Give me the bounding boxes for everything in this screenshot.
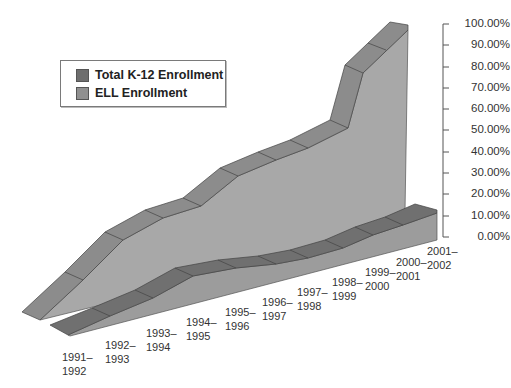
y-tick-label: 40.00% (450, 145, 510, 157)
legend-swatch-total-k12 (76, 69, 89, 82)
y-tick-label: 70.00% (450, 81, 510, 93)
legend-label: ELL Enrollment (95, 86, 187, 100)
x-category-label: 1996–1997 (262, 295, 293, 323)
x-category-label: 1998–1999 (332, 275, 363, 303)
y-tick-label: 60.00% (450, 102, 510, 114)
x-category-label: 1994–1995 (186, 315, 217, 343)
chart-legend: Total K-12 Enrollment ELL Enrollment (60, 60, 226, 107)
x-category-label: 1992–1993 (105, 338, 136, 366)
x-category-label: 1991–1992 (62, 350, 93, 378)
legend-swatch-ell (76, 87, 89, 100)
x-category-label: 1993–1994 (146, 326, 177, 354)
y-tick-label: 90.00% (450, 38, 510, 50)
y-tick-label: 100.00% (450, 17, 510, 29)
x-category-label: 1995–1996 (225, 305, 256, 333)
y-axis (443, 24, 449, 237)
y-tick-label: 80.00% (450, 60, 510, 72)
legend-item-ell: ELL Enrollment (76, 86, 187, 100)
x-category-label: 1999–2000 (365, 265, 396, 293)
legend-label: Total K-12 Enrollment (95, 68, 223, 82)
y-tick-label: 20.00% (450, 187, 510, 199)
y-tick-label: 50.00% (450, 123, 510, 135)
legend-item-total-k12: Total K-12 Enrollment (76, 68, 223, 82)
x-category-label: 2001–2002 (427, 244, 458, 272)
y-tick-label: 0.00% (450, 230, 510, 242)
y-tick-label: 30.00% (450, 166, 510, 178)
y-tick-label: 10.00% (450, 209, 510, 221)
x-category-label: 2000–2001 (396, 255, 427, 283)
x-category-label: 1997–1998 (297, 285, 328, 313)
